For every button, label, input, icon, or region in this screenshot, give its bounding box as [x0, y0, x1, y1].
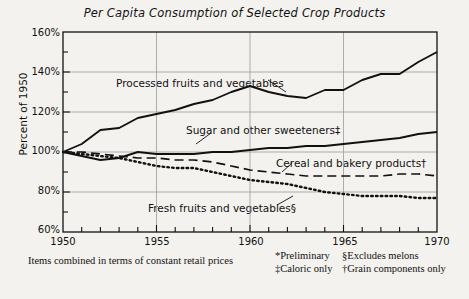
footnote-melons: §Excludes melons — [342, 250, 446, 263]
leader-line-4 — [277, 196, 293, 205]
footnote-caloric: ‡Caloric only — [275, 263, 332, 276]
footnote-main: Items combined in terms of constant reta… — [28, 255, 233, 266]
gridlines — [63, 32, 437, 232]
footnote-grain: †Grain components only — [342, 263, 446, 276]
chart-container: Per Capita Consumption of Selected Crop … — [0, 0, 469, 299]
leader-line-1 — [268, 80, 286, 92]
label-leader-lines — [196, 80, 293, 205]
footnote-preliminary: *Preliminary — [275, 250, 332, 263]
footnote-column-2: §Excludes melons †Grain components only — [342, 250, 446, 275]
footnote-column-1: *Preliminary ‡Caloric only — [275, 250, 332, 275]
leader-line-2 — [196, 133, 211, 144]
leader-line-3 — [282, 163, 292, 172]
